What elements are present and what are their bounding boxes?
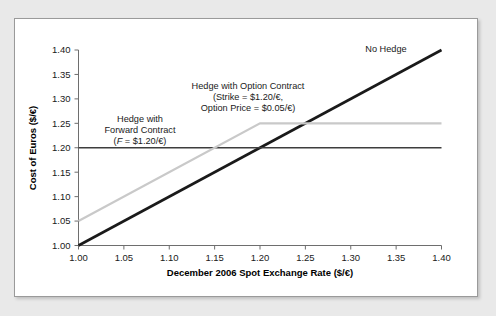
figure-card [14,18,478,297]
figure-root: 1.001.051.101.151.201.251.301.351.40 1.0… [0,0,496,316]
